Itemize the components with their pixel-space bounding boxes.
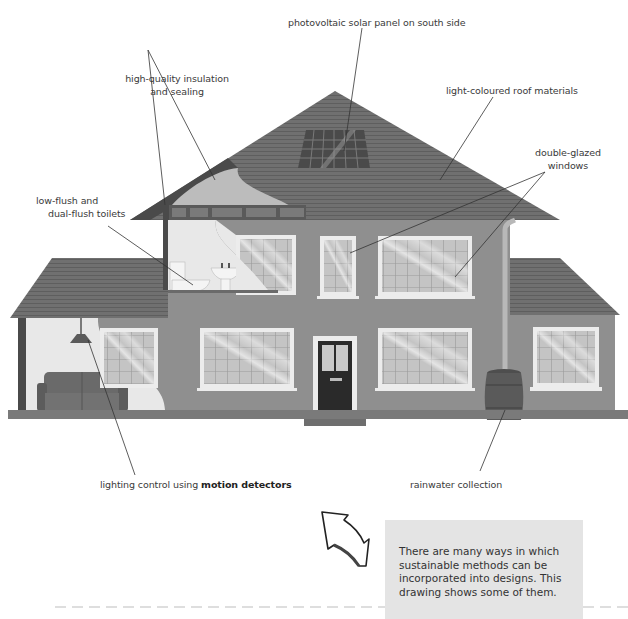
info-note-box: There are many ways in which sustainable…	[385, 520, 583, 619]
foundation	[8, 410, 628, 419]
label-windows-line1: double-glazed	[528, 146, 608, 159]
label-lighting-bold: motion detectors	[201, 479, 292, 490]
curved-arrow-icon	[322, 512, 369, 566]
label-rainwater: rainwater collection	[410, 478, 502, 491]
label-roof-materials: light-coloured roof materials	[446, 84, 578, 97]
main-house	[130, 91, 560, 426]
label-double-glazed: double-glazed windows	[528, 146, 608, 172]
label-toilets-line2: dual-flush toilets	[36, 207, 125, 220]
right-wing	[510, 258, 620, 410]
label-insulation: high-quality insulation and sealing	[112, 72, 242, 98]
label-toilets: low-flush and dual-flush toilets	[36, 194, 125, 220]
left-wing	[10, 258, 170, 411]
label-windows-line2: windows	[528, 159, 608, 172]
label-lighting: lighting control using motion detectors	[100, 478, 292, 491]
label-insulation-line1: high-quality insulation	[112, 72, 242, 85]
label-solar-panel: photovoltaic solar panel on south side	[288, 16, 466, 29]
front-door	[313, 336, 357, 412]
label-insulation-line2: and sealing	[112, 85, 242, 98]
solar-panel	[298, 130, 370, 168]
label-toilets-line1: low-flush and	[36, 194, 125, 207]
info-note-text: There are many ways in which sustainable…	[399, 545, 579, 599]
label-lighting-prefix: lighting control using	[100, 479, 201, 490]
